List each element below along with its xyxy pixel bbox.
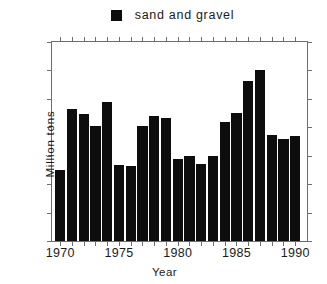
plot-area: 0510152025303519701975198019851990 Milli… <box>51 41 308 242</box>
bar <box>55 170 65 241</box>
y-tick <box>47 70 52 71</box>
x-tick-top <box>201 37 202 42</box>
bar <box>290 136 300 241</box>
y-tick <box>47 99 52 100</box>
figure-container: sand and gravel 051015202530351970197519… <box>0 0 327 284</box>
x-tick <box>142 241 143 246</box>
bar <box>278 139 288 241</box>
y-tick <box>47 213 52 214</box>
x-tick-top <box>95 37 96 42</box>
y-axis-title: Million tons <box>44 110 56 177</box>
bar <box>208 156 218 241</box>
y-tick-right <box>307 156 312 157</box>
x-tick-top <box>166 37 167 42</box>
bar <box>90 126 100 241</box>
bar <box>196 164 206 241</box>
bar <box>220 122 230 241</box>
x-tick-top <box>142 37 143 42</box>
bar <box>67 109 77 241</box>
x-tick-top <box>213 37 214 42</box>
bar <box>149 116 159 241</box>
y-tick-right <box>307 42 312 43</box>
bar <box>243 81 253 241</box>
y-tick-right <box>307 127 312 128</box>
x-tick-top <box>119 37 120 42</box>
x-tick-label: 1985 <box>213 246 259 260</box>
x-tick-label: 1975 <box>96 246 142 260</box>
x-tick-top <box>272 37 273 42</box>
x-tick <box>201 241 202 246</box>
bar <box>126 166 136 241</box>
bar <box>79 114 89 241</box>
x-tick-top <box>295 37 296 42</box>
bar <box>267 135 277 241</box>
bar <box>102 102 112 241</box>
x-tick-top <box>260 37 261 42</box>
y-tick <box>47 42 52 43</box>
x-tick <box>260 241 261 246</box>
x-tick-top <box>60 37 61 42</box>
x-tick-top <box>189 37 190 42</box>
x-tick-top <box>84 37 85 42</box>
x-tick-top <box>178 37 179 42</box>
y-tick-right <box>307 184 312 185</box>
bar <box>184 156 194 241</box>
x-tick-top <box>225 37 226 42</box>
bar <box>137 126 147 241</box>
bar <box>161 118 171 241</box>
y-tick-right <box>307 241 312 242</box>
chart-legend: sand and gravel <box>0 4 327 26</box>
figure-caption <box>6 274 321 284</box>
x-tick-top <box>72 37 73 42</box>
bar <box>114 165 124 241</box>
bar-series <box>52 42 307 241</box>
y-tick-right <box>307 99 312 100</box>
x-tick-top <box>283 37 284 42</box>
x-tick-label: 1980 <box>155 246 201 260</box>
x-tick-label: 1970 <box>37 246 83 260</box>
bar <box>231 113 241 241</box>
y-tick <box>47 241 52 242</box>
x-tick-top <box>131 37 132 42</box>
y-tick-right <box>307 213 312 214</box>
legend-label: sand and gravel <box>135 8 234 22</box>
x-tick-top <box>107 37 108 42</box>
y-tick <box>47 184 52 185</box>
x-tick-top <box>248 37 249 42</box>
x-tick <box>84 241 85 246</box>
x-tick-label: 1990 <box>272 246 318 260</box>
legend-swatch-icon <box>111 10 122 21</box>
bar <box>173 159 183 241</box>
bar <box>255 70 265 241</box>
x-tick-top <box>236 37 237 42</box>
y-tick-right <box>307 70 312 71</box>
x-tick-top <box>154 37 155 42</box>
